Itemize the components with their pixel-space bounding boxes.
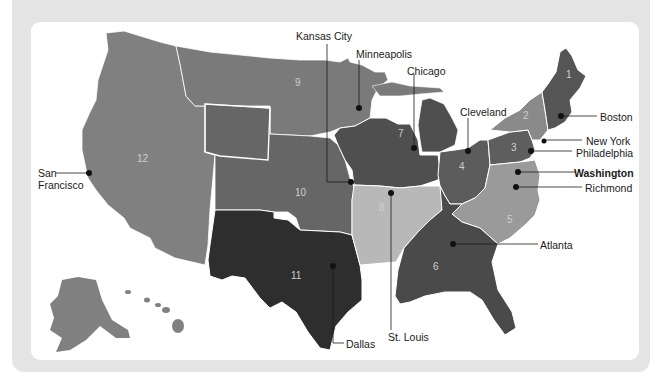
kansas-city-dot <box>348 179 354 185</box>
hawaii-island-3 <box>155 303 161 307</box>
district-number-7: 7 <box>398 128 404 139</box>
richmond-dot <box>513 184 519 190</box>
minneapolis-dot <box>356 105 362 111</box>
chicago-dot <box>411 145 417 151</box>
label-san-francisco-line2: Francisco <box>38 179 84 191</box>
label-atlanta: Atlanta <box>540 239 573 251</box>
label-richmond: Richmond <box>585 182 632 194</box>
label-philadelphia: Philadelphia <box>576 147 633 159</box>
hawaii-island-4 <box>162 307 170 313</box>
district-number-9: 9 <box>295 77 301 88</box>
district-number-1: 1 <box>566 69 572 80</box>
dallas-dot <box>330 263 336 269</box>
hawaii-island-5 <box>172 319 184 333</box>
label-boston: Boston <box>600 111 633 123</box>
label-new-york: New York <box>586 135 630 147</box>
label-st-louis: St. Louis <box>388 331 429 343</box>
hawaii-island-2 <box>144 298 150 303</box>
st-louis-dot <box>388 190 394 196</box>
hawaii-island-1 <box>125 290 131 294</box>
district-number-6: 6 <box>433 261 439 272</box>
district-9-upper-peninsula <box>372 82 444 96</box>
label-washington: Washington <box>574 167 634 179</box>
san-francisco-dot <box>86 170 92 176</box>
philadelphia-dot <box>528 148 534 154</box>
district-number-12: 12 <box>137 153 149 164</box>
label-kansas-city: Kansas City <box>296 30 352 42</box>
label-minneapolis: Minneapolis <box>356 48 412 60</box>
district-number-4: 4 <box>459 161 465 172</box>
label-cleveland: Cleveland <box>460 106 507 118</box>
district-number-10: 10 <box>295 187 307 198</box>
label-dallas: Dallas <box>346 338 375 350</box>
district-number-11: 11 <box>291 270 302 281</box>
district-number-3: 3 <box>511 142 517 153</box>
district-number-2: 2 <box>523 110 529 121</box>
district-1-region <box>542 48 586 130</box>
boston-dot <box>558 113 564 119</box>
district-number-5: 5 <box>507 214 513 225</box>
cleveland-dot <box>465 148 471 154</box>
label-san-francisco-line1: San <box>38 167 57 179</box>
label-chicago: Chicago <box>407 65 446 77</box>
district-7-michigan <box>418 98 458 152</box>
district-number-8: 8 <box>379 202 385 213</box>
us-federal-reserve-map: 1 2 3 4 5 6 7 8 9 10 11 12 <box>0 0 666 387</box>
atlanta-dot <box>450 241 456 247</box>
washington-dot <box>515 169 521 175</box>
alaska-region <box>50 277 130 352</box>
new-york-dot <box>542 139 547 144</box>
